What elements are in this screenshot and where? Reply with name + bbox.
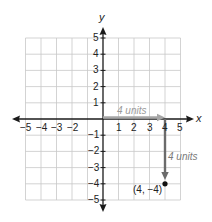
y-tick-label: −2 xyxy=(88,146,99,156)
x-tick-label: 1 xyxy=(116,123,122,133)
x-axis-left-arrow-icon xyxy=(12,116,20,123)
y-axis-down-arrow-icon xyxy=(100,204,107,212)
point-label: (4, −4) xyxy=(133,185,162,195)
x-tick-label: 3 xyxy=(147,123,153,133)
down-arrow-head-icon xyxy=(161,172,168,180)
coordinate-plane-svg xyxy=(0,0,212,222)
y-tick-label: −1 xyxy=(88,130,99,140)
coordinate-plane-diagram: y x −5 −4 −3 −2 1 2 3 4 5 5 4 3 2 1 −1 −… xyxy=(0,0,212,222)
y-axis-label: y xyxy=(99,12,105,23)
x-tick-label: −3 xyxy=(51,123,62,133)
y-tick-label: 5 xyxy=(93,33,99,43)
x-tick-label: −5 xyxy=(20,123,31,133)
y-tick-label: 1 xyxy=(93,98,99,108)
y-tick-label: −3 xyxy=(88,163,99,173)
horizontal-move-label: 4 units xyxy=(117,106,146,116)
x-tick-label: −2 xyxy=(67,123,78,133)
y-axis-up-arrow-icon xyxy=(100,27,107,35)
y-tick-label: 3 xyxy=(93,65,99,75)
y-tick-label: 2 xyxy=(93,82,99,92)
x-tick-label: −4 xyxy=(36,123,47,133)
x-tick-label: 5 xyxy=(177,123,183,133)
x-axis-right-arrow-icon xyxy=(186,116,194,123)
x-tick-label: 2 xyxy=(131,123,137,133)
point-4-neg4 xyxy=(162,181,167,186)
y-tick-label: 4 xyxy=(93,49,99,59)
y-tick-label: −5 xyxy=(88,195,99,205)
x-axis-label: x xyxy=(196,113,202,124)
y-tick-label: −4 xyxy=(88,179,99,189)
vertical-move-label: 4 units xyxy=(168,152,197,162)
x-tick-label: 4 xyxy=(162,123,168,133)
